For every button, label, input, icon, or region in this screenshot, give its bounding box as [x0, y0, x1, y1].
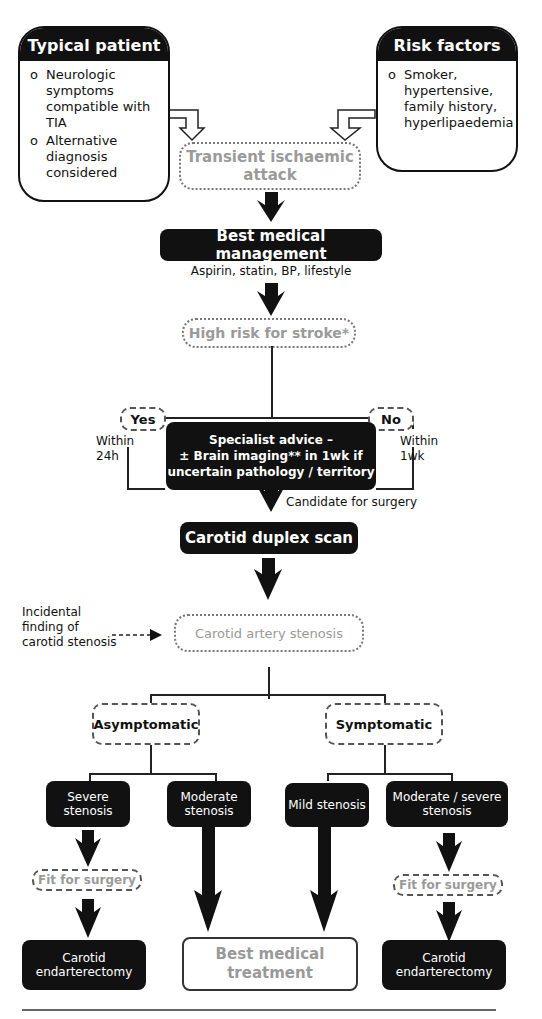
best-medical-management-node: Best medical management — [160, 229, 382, 261]
typical-patient-card: Typical patient oNeurologic symptoms com… — [18, 26, 170, 202]
moderate-stenosis-node: Moderate stenosis — [167, 781, 251, 827]
typical-patient-title: Typical patient — [20, 28, 168, 61]
list-item: oAlternative diagnosis considered — [30, 133, 160, 181]
carotid-artery-stenosis-node: Carotid artery stenosis — [174, 614, 364, 652]
fit-for-surgery-left: Fit for surgery — [32, 869, 142, 891]
risk-factors-card: Risk factors oSmoker, hypertensive, fami… — [376, 26, 518, 172]
fit-for-surgery-right: Fit for surgery — [393, 874, 503, 896]
carotid-endarterectomy-left: Carotid endarterectomy — [22, 940, 146, 990]
specialist-advice-node: Specialist advice – ± Brain imaging** in… — [166, 422, 376, 490]
list-item: oNeurologic symptoms compatible with TIA — [30, 67, 160, 131]
bmm-subtitle: Aspirin, statin, BP, lifestyle — [160, 264, 382, 279]
down-arrow-icon — [75, 192, 462, 942]
typical-patient-list: oNeurologic symptoms compatible with TIA… — [20, 67, 168, 181]
yes-timing: Within 24h — [96, 434, 128, 464]
best-medical-treatment-node: Best medical treatment — [182, 937, 358, 991]
connector — [271, 346, 273, 418]
risk-factors-list: oSmoker, hypertensive, family history, h… — [378, 67, 516, 131]
severe-stenosis-node: Severe stenosis — [46, 781, 130, 827]
yes-node: Yes — [120, 407, 166, 431]
asymptomatic-node: Asymptomatic — [92, 703, 200, 745]
incidental-finding-label: Incidental finding of carotid stenosis — [22, 605, 120, 650]
list-item: oSmoker, hypertensive, family history, h… — [388, 67, 508, 131]
carotid-endarterectomy-right: Carotid endarterectomy — [382, 940, 506, 990]
no-timing: Within 1wk — [400, 434, 432, 464]
high-risk-node: High risk for stroke* — [182, 318, 356, 348]
candidate-for-surgery-label: Candidate for surgery — [286, 495, 417, 510]
tia-node: Transient ischaemic attack — [179, 142, 361, 190]
moderate-severe-stenosis-node: Moderate / severe stenosis — [386, 781, 508, 827]
risk-factors-title: Risk factors — [378, 28, 516, 61]
carotid-duplex-scan-node: Carotid duplex scan — [180, 522, 358, 554]
mild-stenosis-node: Mild stenosis — [285, 783, 369, 827]
symptomatic-node: Symptomatic — [325, 703, 443, 745]
